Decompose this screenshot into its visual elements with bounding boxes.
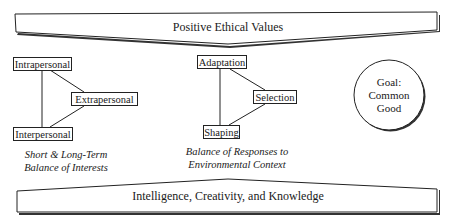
goal-line-2: Common [369,89,410,101]
node-intrapersonal: Intrapersonal [14,58,72,71]
bottom-banner-label: Intelligence, Creativity, and Knowledge [132,189,324,203]
interests-caption-line-2: Balance of Interests [24,162,108,173]
node-interpersonal: Interpersonal [14,128,73,141]
svg-text:Extrapersonal: Extrapersonal [75,94,133,105]
responses-caption-line-2: Environmental Context [187,159,286,170]
svg-text:Adaptation: Adaptation [199,57,246,68]
node-adaptation: Adaptation [198,56,247,69]
connector-intra-extra [50,70,84,92]
svg-text:Selection: Selection [255,92,295,103]
goal-line-3: Good [377,102,402,114]
bottom-banner: Intelligence, Creativity, and Knowledge [17,179,440,215]
ethics-balance-diagram: Positive Ethical Values Intrapersonal Ex… [0,0,449,224]
interests-caption-line-1: Short & Long-Term [25,149,108,160]
connector-adapt-select [230,69,265,90]
top-banner-label: Positive Ethical Values [173,20,284,34]
interests-group: Intrapersonal Extrapersonal Interpersona… [14,58,138,174]
responses-caption-line-1: Balance of Responses to [186,146,288,157]
svg-text:Shaping: Shaping [204,127,239,138]
responses-group: Adaptation Selection Shaping Balance of … [186,56,297,171]
svg-text:Intrapersonal: Intrapersonal [15,59,70,70]
node-extrapersonal: Extrapersonal [72,93,138,106]
svg-text:Interpersonal: Interpersonal [15,129,70,140]
goal-line-1: Goal: [377,76,401,88]
node-selection: Selection [254,91,297,104]
goal-circle: Goal: Common Good [354,60,426,132]
node-shaping: Shaping [204,126,240,139]
connector-select-shape [229,104,265,125]
connector-extra-inter [50,106,84,127]
top-banner: Positive Ethical Values [15,12,440,48]
